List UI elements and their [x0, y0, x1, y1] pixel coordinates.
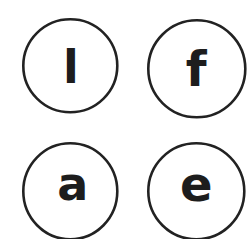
circle-outline-icon: l: [16, 12, 125, 120]
letter-circle-card[interactable]: e: [141, 136, 251, 239]
worksheet-canvas: l f a e: [0, 0, 251, 239]
letter-glyph: f: [186, 41, 208, 97]
circle-outline-icon: f: [141, 13, 251, 125]
letter-circle-card[interactable]: a: [16, 136, 125, 239]
circle-outline-icon: a: [16, 136, 125, 239]
letter-circle-card[interactable]: l: [16, 12, 125, 120]
letter-glyph: a: [57, 157, 88, 211]
letter-glyph: e: [180, 156, 213, 212]
letter-circle-card[interactable]: f: [141, 13, 251, 125]
circle-outline-icon: e: [141, 136, 251, 239]
letter-glyph: l: [63, 40, 79, 94]
